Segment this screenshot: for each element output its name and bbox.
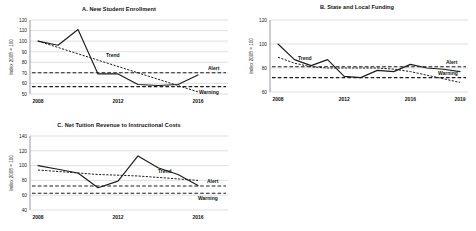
panel-a-alert-label: Alert [208, 65, 220, 71]
y-tick: 90 [22, 50, 28, 55]
y-tick: 120 [19, 18, 27, 23]
panel-a-new-student-enrollment: A. New Student Enrollment 120 110 100 90 [0, 2, 238, 115]
panel-b-data-line [278, 44, 460, 78]
y-tick: 100 [19, 39, 27, 44]
panel-b-y-axis-title: Index 2008 = 100 [249, 38, 254, 74]
panel-a-trend-label: Trend [106, 52, 120, 58]
panel-a-plot: 120 110 100 90 80 70 60 50 Index 2008 = … [0, 2, 238, 115]
y-tick: 60 [22, 193, 28, 198]
panel-b-trend-label: Trend [298, 55, 312, 61]
three-panel-line-chart-figure: A. New Student Enrollment 120 110 100 90 [0, 0, 476, 231]
x-tick: 2012 [112, 214, 123, 220]
panel-b-trend-line [278, 57, 460, 82]
x-tick: 2016 [192, 98, 203, 104]
panel-b-y-tick-labels: 120 100 80 60 [259, 18, 267, 95]
panel-b-x-tick-labels: 2008 2012 2016 2019 [272, 96, 465, 102]
y-tick: 110 [19, 28, 27, 33]
x-tick: 2012 [112, 98, 123, 104]
y-tick: 120 [19, 149, 27, 154]
x-tick: 2008 [32, 98, 43, 104]
panel-a-gridlines [30, 20, 228, 94]
y-tick: 140 [19, 134, 27, 139]
panel-c-y-axis-title: Index 2008 = 100 [9, 155, 14, 191]
panel-c-x-tick-labels: 2008 2012 2016 [32, 214, 203, 220]
y-tick: 80 [22, 178, 28, 183]
y-tick: 60 [262, 90, 268, 95]
y-tick: 120 [259, 18, 267, 23]
panel-b-plot: 120 100 80 60 Index 2008 = 100 2008 2012… [238, 0, 476, 113]
y-tick: 60 [22, 81, 28, 86]
y-tick: 40 [22, 208, 28, 213]
y-tick: 80 [22, 60, 28, 65]
panel-b-warning-label: Warning [438, 70, 458, 76]
panel-c-warning-label: Warning [198, 195, 218, 201]
panel-a-y-tick-labels: 120 110 100 90 80 70 60 50 [19, 18, 27, 97]
panel-c-trend-label: Trend [158, 168, 172, 174]
x-tick: 2008 [32, 214, 43, 220]
panel-c-data-line [38, 156, 198, 188]
y-tick: 80 [262, 66, 268, 71]
panel-a-y-axis-title: Index 2008 = 100 [9, 39, 14, 75]
panel-c-plot: 140 120 100 80 60 40 Index 2008 = 100 20… [0, 117, 238, 231]
panel-c-trend-line [38, 170, 198, 180]
y-tick: 50 [22, 92, 28, 97]
panel-b-alert-label: Alert [446, 59, 458, 65]
panel-c-y-tick-labels: 140 120 100 80 60 40 [19, 134, 27, 213]
panel-c-net-tuition-revenue-to-instructional-costs: C. Net Tuition Revenue to Instructional … [0, 117, 238, 231]
x-tick: 2019 [454, 96, 465, 102]
y-tick: 100 [19, 163, 27, 168]
x-tick: 2016 [192, 214, 203, 220]
y-tick: 100 [259, 42, 267, 47]
x-tick: 2008 [272, 96, 283, 102]
panel-a-x-tick-labels: 2008 2012 2016 [32, 98, 203, 104]
panel-a-data-line [38, 30, 198, 86]
panel-c-alert-label: Alert [207, 178, 219, 184]
panel-a-warning-label: Warning [199, 89, 219, 95]
x-tick: 2016 [405, 96, 416, 102]
y-tick: 70 [22, 71, 28, 76]
panel-b-state-and-local-funding: B. State and Local Funding 120 100 80 60… [238, 0, 476, 113]
x-tick: 2012 [339, 96, 350, 102]
